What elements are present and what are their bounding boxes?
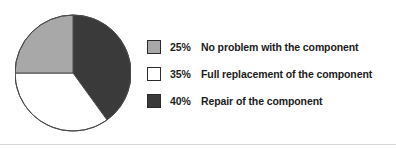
legend: 25% No problem with the component 35% Fu… [147,33,393,114]
legend-swatch-repair [147,94,161,108]
pie-slice-no-problem [15,15,73,73]
legend-label-no-problem: No problem with the component [201,41,359,53]
pie-chart [15,12,131,134]
legend-percent-repair: 40% [170,95,201,107]
legend-swatch-no-problem [147,40,161,54]
legend-item-full-replacement: 35% Full replacement of the component [147,60,393,87]
legend-label-repair: Repair of the component [201,95,322,107]
legend-swatch-full-replacement [147,67,161,81]
legend-item-no-problem: 25% No problem with the component [147,33,393,60]
pie-chart-figure: 25% No problem with the component 35% Fu… [0,0,396,148]
legend-percent-no-problem: 25% [170,41,201,53]
bottom-divider [0,144,396,145]
legend-item-repair: 40% Repair of the component [147,87,393,114]
legend-percent-full-replacement: 35% [170,68,201,80]
legend-label-full-replacement: Full replacement of the component [201,68,372,80]
